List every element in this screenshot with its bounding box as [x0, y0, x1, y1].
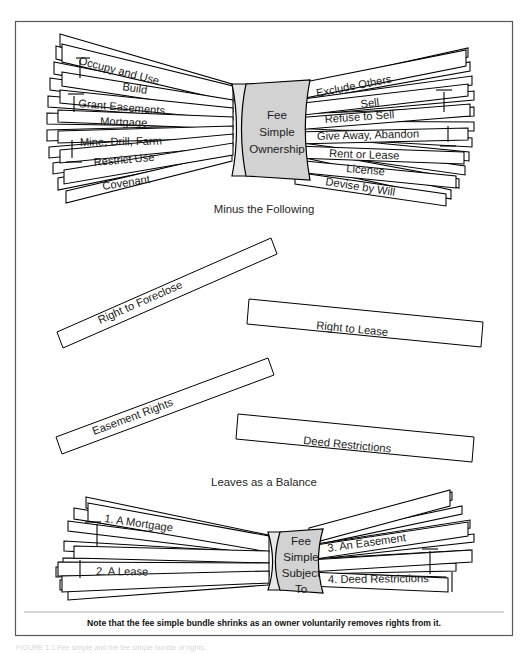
figure-note: Note that the fee simple bundle shrinks … [87, 618, 441, 628]
figure-caption-faint: FIGURE 1.1 Fee simple and the fee simple… [16, 643, 206, 652]
top-left-label-5: Mine, Drill, Farm [80, 135, 162, 148]
bottom-center-line1: Fee [291, 534, 311, 547]
bottom-right-label-2: 4. Deed Restrictions [328, 572, 429, 585]
bottom-center-line3: Subject [282, 566, 321, 579]
top-center-line3: Ownership [249, 142, 304, 155]
bundle-of-rights-diagram: Fee Simple Ownership Occupy and Use Buil… [0, 0, 528, 654]
bottom-center-line2: Simple [283, 550, 318, 563]
top-right-label-5: Rent or Lease [329, 147, 400, 161]
leaves-as-a-balance-label: Leaves as a Balance [211, 476, 317, 488]
top-center-line1: Fee [267, 108, 287, 121]
bottom-left-label-2: 2. A Lease [96, 565, 148, 577]
minus-the-following-label: Minus the Following [214, 203, 315, 215]
figure-root: Fee Simple Ownership Occupy and Use Buil… [0, 0, 528, 654]
top-right-label-2: Sell [360, 96, 380, 110]
bottom-center-line4: To [295, 582, 307, 595]
top-left-label-4: Mortgage [100, 115, 148, 129]
top-center-line2: Simple [259, 125, 294, 138]
